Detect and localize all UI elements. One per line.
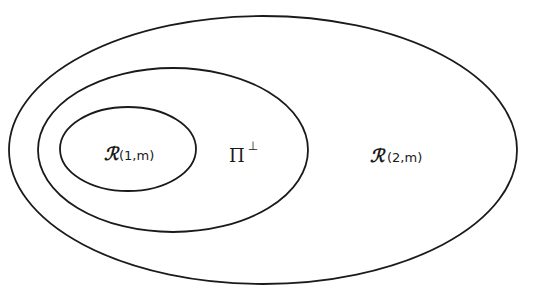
label-pi-perp: Π⊥ <box>229 139 258 166</box>
label-r1m: ℛ(1,m) <box>104 143 154 164</box>
outer-ellipse-r2m <box>9 16 517 284</box>
label-r2m: ℛ(2,m) <box>370 145 422 166</box>
nested-sets-diagram: ℛ(1,m) Π⊥ ℛ(2,m) <box>0 0 539 305</box>
middle-ellipse-pi-perp <box>38 68 308 232</box>
